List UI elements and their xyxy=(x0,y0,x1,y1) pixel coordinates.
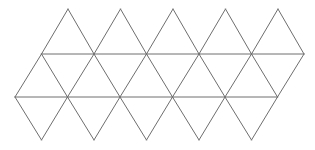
bottom-triangle-edge xyxy=(199,97,225,140)
middle-band-edge xyxy=(94,54,120,97)
middle-band-edge xyxy=(120,54,147,97)
bottom-triangle-edge xyxy=(225,97,252,140)
middle-band-edge xyxy=(15,54,42,97)
top-triangle-edge xyxy=(173,9,199,54)
bottom-triangle-edge xyxy=(173,97,200,140)
middle-band-edge xyxy=(252,54,278,97)
bottom-triangle-edge xyxy=(42,97,68,140)
top-triangle-edge xyxy=(226,9,252,54)
top-triangle-edge xyxy=(147,9,174,54)
middle-band-edge xyxy=(42,54,68,97)
middle-band-edge xyxy=(147,54,173,97)
top-triangle-edge xyxy=(278,9,304,54)
top-triangle-edge xyxy=(121,9,147,54)
middle-band-edge xyxy=(173,54,200,97)
bottom-triangle-edge xyxy=(94,97,120,140)
icosahedron-net-diagram xyxy=(0,0,315,150)
middle-band-edge xyxy=(68,54,95,97)
top-triangle-edge xyxy=(199,9,226,54)
top-triangle-edge xyxy=(252,9,279,54)
top-triangle-edge xyxy=(94,9,121,54)
middle-band-edge xyxy=(278,54,305,97)
top-triangle-edge xyxy=(42,9,69,54)
top-triangle-edge xyxy=(68,9,94,54)
net-edges xyxy=(15,9,304,140)
bottom-triangle-edge xyxy=(68,97,95,140)
bottom-triangle-edge xyxy=(15,97,42,140)
bottom-triangle-edge xyxy=(147,97,173,140)
bottom-triangle-edge xyxy=(252,97,278,140)
bottom-triangle-edge xyxy=(120,97,147,140)
middle-band-edge xyxy=(225,54,252,97)
middle-band-edge xyxy=(199,54,225,97)
